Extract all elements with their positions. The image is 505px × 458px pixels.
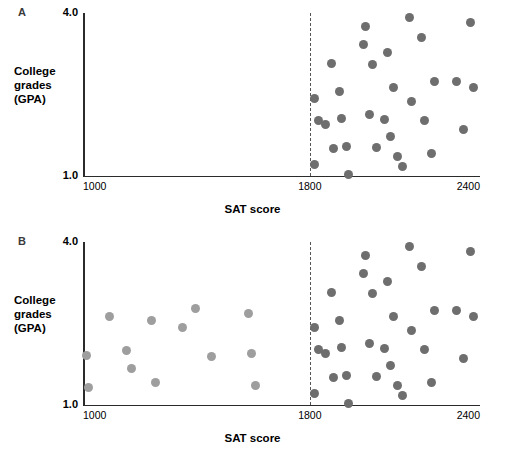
scatter-plot-figure: A College grades (GPA) 4.0 1.0 1000 1800… [0, 0, 505, 458]
panel-b-letter: B [18, 235, 26, 247]
data-point [310, 160, 319, 169]
data-point [321, 349, 330, 358]
panel-a-y-tick-top: 4.0 [52, 6, 78, 18]
panel-a-y-tick-bottom: 1.0 [52, 169, 78, 181]
panel-b-x-tick-2400: 2400 [446, 409, 480, 421]
data-point [244, 309, 253, 318]
data-point [359, 269, 368, 278]
data-point [178, 323, 187, 332]
data-point [466, 18, 475, 27]
panel-b-y-axis-title: College grades (GPA) [14, 293, 84, 335]
data-point [466, 247, 475, 256]
panel-b-x-tick-1800: 1800 [293, 409, 327, 421]
data-point [251, 381, 260, 390]
panel-a-x-tick-1000: 1000 [83, 180, 106, 192]
data-point [207, 352, 216, 361]
data-point [398, 391, 407, 400]
data-point [335, 87, 344, 96]
y-axis-title-line-3: (GPA) [14, 321, 84, 335]
data-point [420, 345, 429, 354]
panel-b-y-tick-bottom: 1.0 [52, 398, 78, 410]
data-point [365, 110, 374, 119]
data-point [344, 170, 353, 179]
data-point [372, 372, 381, 381]
data-point [393, 152, 402, 161]
data-point [321, 120, 330, 129]
data-point [310, 389, 319, 398]
panel-a-x-tick-2400: 2400 [446, 180, 480, 192]
data-point [420, 116, 429, 125]
data-point [147, 316, 156, 325]
data-point [342, 371, 351, 380]
data-point [380, 344, 389, 353]
data-point [405, 242, 414, 251]
y-axis-title-line-2: grades [14, 307, 84, 321]
data-point [430, 306, 439, 315]
data-point [310, 94, 319, 103]
data-point [389, 312, 398, 321]
data-point [427, 149, 436, 158]
data-point [127, 364, 136, 373]
data-point [247, 349, 256, 358]
data-point [151, 378, 160, 387]
panel-b: B College grades (GPA) 4.0 1.0 1000 1800… [0, 229, 505, 458]
panel-a: A College grades (GPA) 4.0 1.0 1000 1800… [0, 0, 505, 229]
data-point [407, 97, 416, 106]
data-point [105, 312, 114, 321]
y-axis-title-line-3: (GPA) [14, 92, 84, 106]
data-point [417, 33, 426, 42]
data-point [372, 143, 381, 152]
data-point [368, 60, 377, 69]
panel-a-x-tick-1800: 1800 [293, 180, 327, 192]
panel-a-x-axis-title: SAT score [0, 203, 505, 215]
data-point [459, 125, 468, 134]
data-point [337, 343, 346, 352]
data-point [389, 83, 398, 92]
data-point [329, 144, 338, 153]
panel-b-x-axis-title: SAT score [0, 432, 505, 444]
data-point [342, 142, 351, 151]
data-point [191, 304, 200, 313]
data-point [430, 77, 439, 86]
y-axis-title-line-1: College [14, 64, 84, 78]
data-point [380, 115, 389, 124]
data-point [361, 22, 370, 31]
data-point [344, 399, 353, 408]
data-point [452, 306, 461, 315]
data-point [335, 316, 344, 325]
panel-b-x-tick-1000: 1000 [83, 409, 106, 421]
y-axis-title-line-2: grades [14, 78, 84, 92]
panel-a-letter: A [18, 6, 26, 18]
data-point [405, 13, 414, 22]
data-point [452, 77, 461, 86]
data-point [359, 40, 368, 49]
data-point [82, 351, 91, 360]
data-point [329, 373, 338, 382]
panel-b-y-tick-top: 4.0 [52, 235, 78, 247]
data-point [337, 114, 346, 123]
data-point [469, 312, 478, 321]
y-axis-title-line-1: College [14, 293, 84, 307]
data-point [459, 354, 468, 363]
data-point [398, 162, 407, 171]
data-point [310, 323, 319, 332]
data-point [327, 288, 336, 297]
data-point [417, 262, 426, 271]
panel-a-plot-area [83, 13, 480, 176]
data-point [365, 339, 374, 348]
data-point [368, 289, 377, 298]
data-point [361, 251, 370, 260]
data-point [84, 383, 93, 392]
data-point [386, 132, 395, 141]
data-point [393, 381, 402, 390]
data-point [407, 326, 416, 335]
data-point [122, 346, 131, 355]
data-point [327, 59, 336, 68]
data-point [386, 361, 395, 370]
data-point [383, 277, 392, 286]
data-point [383, 48, 392, 57]
data-point [469, 83, 478, 92]
panel-a-y-axis-title: College grades (GPA) [14, 64, 84, 106]
data-point [427, 378, 436, 387]
panel-b-plot-area [83, 242, 480, 405]
